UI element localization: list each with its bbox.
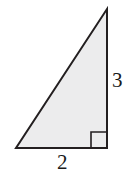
triangle-outline [16,9,107,148]
right-triangle-figure: 3 2 [0,0,134,174]
side-label-horizontal-leg: 2 [57,152,68,173]
side-label-vertical-leg: 3 [112,70,123,91]
